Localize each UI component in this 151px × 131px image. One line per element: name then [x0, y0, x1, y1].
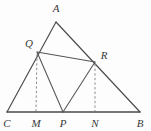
label-point-p: P — [59, 117, 67, 129]
segment-qr-line — [37, 52, 95, 62]
label-point-a: A — [52, 2, 60, 14]
segment-pr-line — [63, 62, 95, 112]
label-point-q: Q — [25, 37, 33, 49]
label-point-n: N — [90, 117, 99, 129]
side-ab-line — [56, 22, 140, 112]
side-ac-line — [7, 22, 56, 112]
label-point-r: R — [100, 49, 108, 61]
geometry-figure: A Q R C M P N B — [0, 0, 151, 131]
geometry-canvas: A Q R C M P N B — [0, 0, 151, 131]
label-point-m: M — [30, 117, 41, 129]
label-point-c: C — [3, 117, 11, 129]
segment-qp-line — [37, 52, 63, 112]
label-point-b: B — [137, 117, 144, 129]
altitude-qm-dashed — [36, 54, 37, 111]
